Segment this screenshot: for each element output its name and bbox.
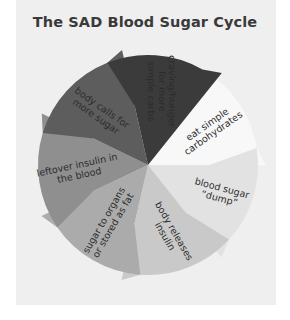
segment-label-line: for more <box>157 71 168 112</box>
segment-label-line: simple carbs <box>146 61 157 121</box>
cycle-wheel: craving/hungerfor moresimple carbseat si… <box>0 0 290 320</box>
segment-label-line: craving/hunger <box>167 55 178 127</box>
